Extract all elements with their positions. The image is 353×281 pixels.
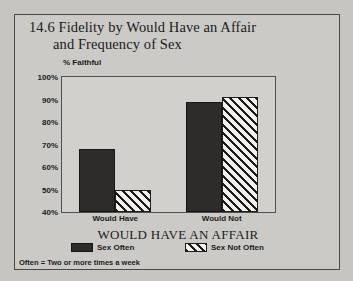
- y-axis-tick: 80%: [42, 118, 58, 127]
- x-axis-tick: Would Have: [92, 214, 138, 223]
- plot-area: 100%90%80%70%60%50%40%Would HaveWould No…: [61, 76, 276, 213]
- bar-would-have-sex-not-often: [115, 190, 151, 213]
- y-axis-tick: 90%: [42, 95, 58, 104]
- y-axis-tick: 70%: [42, 140, 58, 149]
- legend-swatch-hatch-icon: [185, 243, 207, 252]
- legend-item-sex-not-often: Sex Not Often: [185, 243, 264, 252]
- figure-border: 14.6 Fidelity by Would Have an Affair an…: [14, 14, 340, 270]
- bar-would-not-sex-not-often: [222, 97, 258, 212]
- legend-label-sex-often: Sex Often: [97, 243, 134, 252]
- legend-label-sex-not-often: Sex Not Often: [211, 243, 264, 252]
- y-axis-tick: 100%: [38, 73, 58, 82]
- title-line-2: and Frequency of Sex: [29, 36, 329, 53]
- legend: Sex Often Sex Not Often: [15, 243, 341, 257]
- y-axis-tick: 40%: [42, 208, 58, 217]
- y-axis-tick: 50%: [42, 185, 58, 194]
- y-axis-tick: 60%: [42, 163, 58, 172]
- bar-would-not-sex-often: [186, 102, 222, 212]
- x-axis-tick: Would Not: [202, 214, 242, 223]
- page-title: 14.6 Fidelity by Would Have an Affair an…: [29, 19, 329, 53]
- x-axis-title: WOULD HAVE AN AFFAIR: [15, 227, 341, 243]
- legend-item-sex-often: Sex Often: [71, 243, 134, 252]
- footnote: Often = Two or more times a week: [19, 258, 140, 267]
- y-axis-label: % Faithful: [63, 58, 101, 67]
- title-line-1: 14.6 Fidelity by Would Have an Affair: [29, 19, 256, 35]
- legend-swatch-solid-icon: [71, 243, 93, 252]
- bar-would-have-sex-often: [79, 149, 115, 212]
- figure-page: 14.6 Fidelity by Would Have an Affair an…: [0, 0, 353, 281]
